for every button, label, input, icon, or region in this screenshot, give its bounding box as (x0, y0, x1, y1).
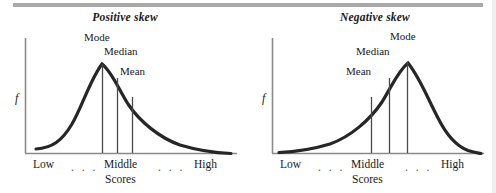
panel-positive-skew: Positive skew f Mode Median Mean Low . .… (0, 0, 248, 193)
x-tick-label-low: Low (280, 159, 301, 171)
x-axis-title-scores: Scores (105, 174, 136, 186)
x-tick-label-middle: Middle (104, 159, 137, 171)
marker-label-median: Median (104, 46, 138, 57)
marker-label-mode: Mode (84, 32, 110, 43)
x-tick-ellipsis-left: . . . (318, 162, 345, 174)
y-axis-label-frequency: f (15, 91, 18, 106)
y-axis-label-frequency: f (262, 91, 265, 106)
marker-label-mean: Mean (120, 66, 145, 77)
x-tick-label-high: High (441, 159, 464, 171)
x-tick-ellipsis-right: . . . (158, 162, 185, 174)
marker-label-mode: Mode (390, 31, 416, 42)
marker-label-median: Median (356, 46, 390, 57)
x-tick-ellipsis-left: . . . (71, 162, 98, 174)
x-tick-ellipsis-right: . . . (405, 162, 432, 174)
marker-label-mean: Mean (346, 66, 371, 77)
x-tick-label-high: High (194, 159, 217, 171)
x-tick-label-middle: Middle (351, 159, 384, 171)
x-tick-label-low: Low (33, 159, 54, 171)
panel-negative-skew: Negative skew f Mean Median Mode Low . .… (248, 0, 496, 193)
x-axis-title-scores: Scores (352, 174, 383, 186)
figure-root: Positive skew f Mode Median Mean Low . .… (0, 0, 496, 193)
